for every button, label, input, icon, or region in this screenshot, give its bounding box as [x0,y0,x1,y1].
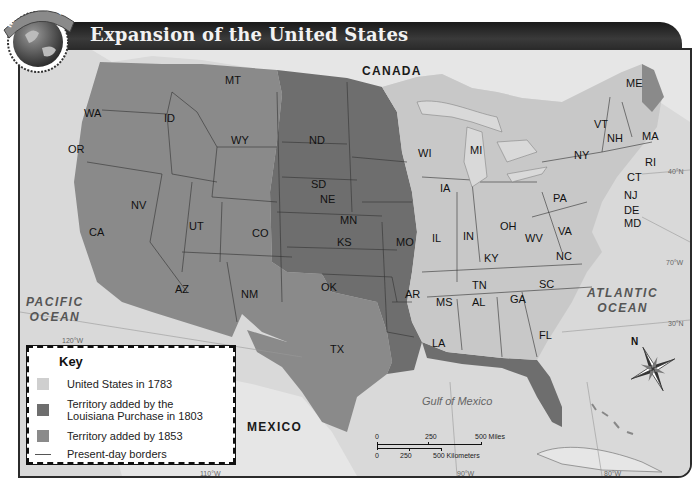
grid-label-30n: 30°N [668,320,684,327]
state-label-fl: FL [539,329,552,341]
state-label-ms: MS [436,296,453,308]
grid-label-120w: 120°W [62,337,83,344]
state-label-tn: TN [472,279,487,291]
state-label-ct: CT [627,171,642,183]
swatch-added-1853 [37,430,49,442]
state-label-ca: CA [89,226,104,238]
svg-text:N: N [631,336,638,347]
state-label-va: VA [558,225,572,237]
grid-label-80w: 80°W [604,470,621,477]
state-label-id: ID [164,112,175,124]
line-present-borders [35,454,51,455]
state-label-mo: MO [396,236,414,248]
state-label-in: IN [463,230,474,242]
state-label-nh: NH [607,132,623,144]
state-label-de: DE [624,204,639,216]
state-label-az: AZ [175,283,189,295]
state-label-mt: MT [225,74,241,86]
state-label-ny: NY [574,149,589,161]
map-title: Expansion of the United States [90,24,408,45]
ocean-label-atlantic: ATLANTICOCEAN [587,286,658,316]
compass-rose-icon: N [625,335,685,395]
state-label-ia: IA [440,182,450,194]
state-label-ky: KY [484,252,499,264]
state-label-co: CO [252,227,269,239]
state-label-sd: SD [311,178,326,190]
map-key: Key United States in 1783 Territory adde… [27,346,235,464]
state-label-mn: MN [340,214,357,226]
state-label-ks: KS [337,236,352,248]
state-label-ne: NE [320,193,335,205]
grid-label-40n: 40°N [668,168,684,175]
state-label-al: AL [472,296,485,308]
state-label-mi: MI [470,144,482,156]
grid-label-110w: 110°W [200,470,221,477]
state-label-nm: NM [241,288,258,300]
state-label-tx: TX [330,343,344,355]
swatch-us-1783 [37,378,49,390]
state-label-wv: WV [525,232,543,244]
state-label-pa: PA [553,192,567,204]
state-label-md: MD [624,217,641,229]
key-title: Key [59,354,83,369]
swatch-louisiana-purchase [37,404,49,416]
state-label-vt: VT [594,118,608,130]
map-skill-badge: MAP SKILL [0,0,78,78]
state-label-ok: OK [321,281,337,293]
state-label-nd: ND [309,134,325,146]
state-label-or: OR [68,143,85,155]
country-label-mexico: MEXICO [247,420,302,434]
state-label-wi: WI [418,147,431,159]
state-label-ma: MA [642,130,659,142]
state-label-wy: WY [231,134,249,146]
state-label-nv: NV [131,199,146,211]
state-label-nc: NC [556,250,572,262]
ocean-label-pacific: PACIFICOCEAN [26,295,84,325]
state-label-sc: SC [539,278,554,290]
country-label-canada: CANADA [362,64,422,78]
state-label-la: LA [432,337,445,349]
state-label-ut: UT [189,220,204,232]
grid-label-70w: 70°W [666,259,683,266]
grid-label-90w: 90°W [457,470,474,477]
state-label-nj: NJ [624,189,637,201]
state-label-ga: GA [510,293,526,305]
state-label-wa: WA [84,107,101,119]
state-label-il: IL [432,232,441,244]
state-label-me: ME [626,77,643,89]
state-label-ri: RI [645,156,656,168]
state-label-ar: AR [405,288,420,300]
state-label-oh: OH [500,220,517,232]
map-figure: Expansion of the United States [0,0,692,491]
gulf-of-mexico-label: Gulf of Mexico [422,395,492,407]
